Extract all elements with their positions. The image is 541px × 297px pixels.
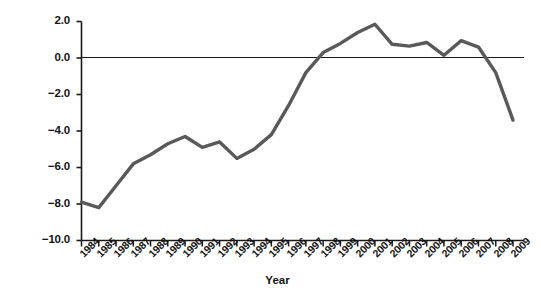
y-tick-label: −10.0 (24, 233, 70, 245)
y-tick-label: 0.0 (24, 51, 70, 63)
x-axis-title-text: Year (265, 274, 289, 286)
y-tick-label: −8.0 (24, 197, 70, 209)
chart-figure: Federal budget balance (% of output) 2.0… (0, 0, 541, 297)
budget-balance-line (82, 24, 514, 207)
x-axis-title: Year (0, 274, 541, 286)
y-tick-label: −2.0 (24, 87, 70, 99)
y-tick-label: −4.0 (24, 124, 70, 136)
y-tick-label: 2.0 (24, 14, 70, 26)
y-tick-label: −6.0 (24, 160, 70, 172)
